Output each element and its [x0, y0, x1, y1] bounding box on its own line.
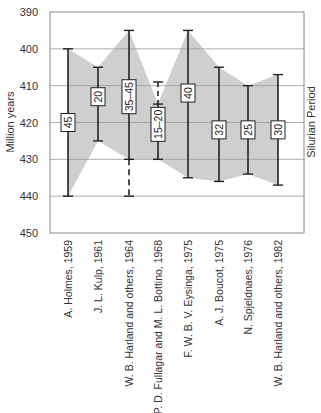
y-axis-ticks: 390400410420430440450 — [20, 6, 38, 239]
y-tick-label: 430 — [20, 153, 38, 165]
x-category-label: A. J. Boucot, 1975 — [213, 240, 225, 326]
duration-label: 25 — [242, 124, 254, 136]
y-tick-label: 420 — [20, 117, 38, 129]
silurian-period-label: Silurian Period — [305, 86, 317, 158]
duration-label: 32 — [213, 124, 225, 136]
duration-label: 15–20 — [152, 110, 164, 139]
shaded-envelope — [68, 30, 278, 196]
x-category-label: W. B. Harland and others, 1982 — [272, 240, 284, 387]
duration-label: 40 — [182, 87, 194, 99]
duration-label: 45 — [62, 117, 74, 129]
x-category-label: W. B. Harland and others, 1964 — [123, 240, 135, 387]
duration-label: 20 — [92, 91, 104, 103]
duration-label: 30 — [272, 124, 284, 136]
y-axis-title: Million years — [4, 91, 16, 153]
x-category-label: A. Holmes, 1959 — [62, 240, 74, 318]
x-category-label: N. Spjeldnaes, 1976 — [242, 240, 254, 335]
y-tick-label: 390 — [20, 6, 38, 18]
x-category-label: J. L. Kulp, 1961 — [92, 240, 104, 313]
x-category-label: P. D. Fullagar and M. L. Bottino, 1968 — [152, 240, 164, 413]
silurian-duration-chart: 390400410420430440450 Million years Silu… — [0, 0, 321, 413]
duration-label: 35–45 — [123, 82, 135, 111]
y-tick-label: 410 — [20, 80, 38, 92]
x-axis-category-labels: A. Holmes, 1959J. L. Kulp, 1961W. B. Har… — [62, 240, 284, 413]
y-tick-label: 440 — [20, 190, 38, 202]
x-category-label: F. W. B. V. Eysinga, 1975 — [182, 240, 194, 358]
y-tick-label: 400 — [20, 43, 38, 55]
y-tick-label: 450 — [20, 227, 38, 239]
